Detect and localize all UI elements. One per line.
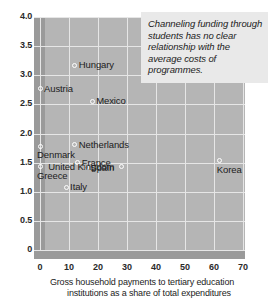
x-tick-label: 40 [144,262,168,272]
data-point-label: Korea [217,164,242,175]
annotation-callout: Channeling funding through students has … [141,12,268,83]
x-tick-label: 60 [202,262,226,272]
data-point-marker [38,86,43,91]
data-point-marker [64,185,69,190]
gridline-horizontal [34,104,245,105]
y-tick-label: 3.0 [2,69,32,79]
gridline-horizontal [34,221,245,222]
data-point-marker [38,164,43,169]
x-tick-label: 50 [173,262,197,272]
data-point-label: Italy [70,181,87,192]
x-axis-label-line1: Gross household payments to tertiary edu… [50,277,234,287]
x-tick-label: 10 [57,262,81,272]
data-point-label: Denmark [37,149,75,160]
gridline-horizontal [34,192,245,193]
data-point-label: United Kingdom [48,161,114,172]
data-point-label: Hungary [79,59,114,70]
data-point-marker [119,164,124,169]
x-tick-label: 20 [86,262,110,272]
y-tick-label: 2.0 [2,128,32,138]
y-tick-label: 0.5 [2,215,32,225]
y-tick-label: 4.0 [2,11,32,21]
x-tick-label: 30 [115,262,139,272]
data-point-label: Netherlands [79,139,129,150]
x-axis-label: Gross household payments to tertiary edu… [22,277,262,299]
data-point-marker [90,99,95,104]
x-tick-label: 0 [28,262,52,272]
gridline-horizontal [34,134,245,135]
gridline-horizontal [34,250,245,251]
y-tick-label: 1.0 [2,186,32,196]
y-tick-label: 0 [2,244,32,254]
data-point-marker [38,144,43,149]
y-tick-label: 1.5 [2,157,32,167]
scatter-chart: 00.51.01.52.02.53.03.54.0 01020304050607… [0,0,268,307]
y-tick-label: 2.5 [2,98,32,108]
y-tick-label: 3.5 [2,40,32,50]
data-point-label: Austria [44,83,73,94]
x-axis-label-line2: institutions as a share of total expendi… [22,288,262,299]
axis-bottom-band [34,250,245,259]
x-tick-label: 70 [231,262,255,272]
data-point-label: Mexico [96,95,126,106]
